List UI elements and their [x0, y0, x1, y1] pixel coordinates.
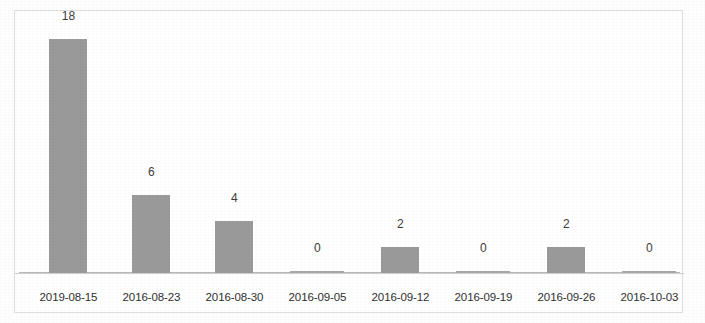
bar-value-label: 6 [110, 165, 193, 179]
bar-column[interactable] [290, 271, 344, 273]
x-axis-label-separator [15, 273, 684, 274]
x-axis-tick-label: 2016-08-23 [108, 291, 195, 303]
bar-value-label: 2 [359, 217, 442, 231]
x-axis-tick-label: 2016-09-19 [440, 291, 527, 303]
bar-column[interactable] [456, 271, 510, 273]
bar-column[interactable] [547, 247, 585, 273]
x-axis-tick-label: 2016-09-12 [357, 291, 444, 303]
bar-column[interactable] [132, 195, 170, 273]
bar-value-label: 0 [608, 241, 691, 255]
bar-value-label: 2 [525, 217, 608, 231]
x-axis-tick-label: 2016-10-03 [606, 291, 693, 303]
x-axis-tick-label: 2016-09-26 [523, 291, 610, 303]
bar-column[interactable] [381, 247, 419, 273]
bar-value-label: 4 [193, 191, 276, 205]
bar-column[interactable] [49, 39, 87, 273]
bar-value-label: 18 [27, 9, 110, 23]
x-axis-tick-label: 2016-08-30 [191, 291, 278, 303]
x-axis-tick-label: 2019-08-15 [25, 291, 112, 303]
bar-value-label: 0 [442, 241, 525, 255]
bar-column[interactable] [215, 221, 253, 273]
bar-chart-plot-area: 18 2019-08-15 6 2016-08-23 4 2016-08-30 … [15, 11, 684, 314]
x-axis-tick-label: 2016-09-05 [274, 291, 361, 303]
chart-frame: 18 2019-08-15 6 2016-08-23 4 2016-08-30 … [14, 10, 683, 313]
bar-column[interactable] [622, 271, 676, 273]
bar-value-label: 0 [276, 241, 359, 255]
